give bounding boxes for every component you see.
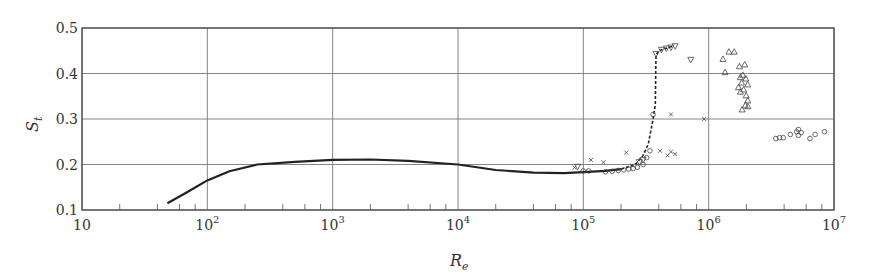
y-tick-label: 0.3 [56, 111, 78, 127]
marker-triangle-down [688, 57, 694, 63]
x-tick-label: 107 [822, 214, 846, 233]
marker-triangle-up [736, 63, 742, 69]
marker-circle [799, 130, 804, 135]
data-lines [167, 46, 673, 203]
minor-ticks [120, 204, 822, 210]
x-tick-label: 106 [697, 214, 721, 233]
line-transition-curve [621, 46, 673, 169]
marker-triangle-up [742, 61, 748, 67]
marker-triangle-up [726, 49, 732, 55]
marker-triangle-up [745, 81, 751, 87]
marker-circle [788, 132, 793, 137]
data-markers [572, 44, 826, 174]
marker-triangle-down [653, 51, 659, 57]
marker-circle [813, 132, 818, 137]
marker-triangle-up [743, 76, 749, 82]
y-tick-label: 0.4 [56, 66, 78, 82]
y-axis-label: St [23, 116, 45, 132]
x-tick-label: 104 [446, 214, 470, 233]
line-mean-curve [167, 160, 621, 204]
marker-triangle-up [743, 92, 749, 98]
marker-circle [648, 149, 653, 154]
x-tick-label: 10 [73, 217, 91, 233]
y-tick-label: 0.1 [56, 202, 78, 218]
x-tick-label: 105 [571, 214, 595, 233]
y-tick-label: 0.5 [56, 20, 78, 36]
marker-circle [822, 129, 827, 134]
marker-triangle-up [731, 49, 737, 55]
marker-circle [808, 136, 813, 141]
marker-triangle-up [739, 106, 745, 112]
y-tick-label: 0.2 [56, 157, 78, 173]
x-tick-labels: 10102103104105106107 [73, 214, 846, 233]
marker-triangle-up [739, 80, 745, 86]
x-tick-label: 102 [195, 214, 219, 233]
y-tick-labels: 0.10.20.30.40.5 [56, 20, 78, 218]
x-tick-label: 103 [321, 214, 345, 233]
marker-triangle-up [720, 56, 726, 62]
strouhal-reynolds-chart: 10102103104105106107 0.10.20.30.40.5 Re … [0, 0, 880, 278]
grid-lines [82, 28, 834, 210]
marker-circle [635, 165, 640, 170]
x-axis-label: Re [449, 251, 469, 273]
